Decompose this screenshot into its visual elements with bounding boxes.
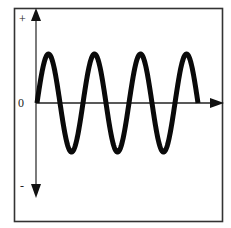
minus-label: -	[20, 180, 24, 192]
signal-plot	[0, 0, 231, 228]
diagram-canvas: + 0 -	[0, 0, 231, 228]
down-arrow-icon	[31, 184, 41, 198]
plus-label: +	[19, 13, 26, 25]
up-arrow-icon	[31, 8, 41, 21]
zero-label: 0	[18, 97, 24, 109]
frame-border	[15, 9, 223, 222]
